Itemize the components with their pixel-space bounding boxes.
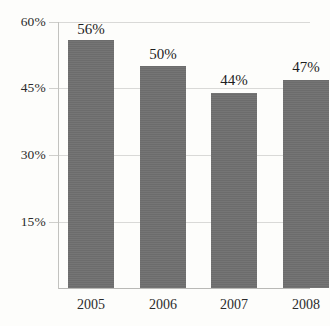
x-tick-label-2008: 2008 (274, 297, 330, 313)
tick-mark-45 (49, 88, 58, 89)
x-tick-label-2007: 2007 (202, 297, 266, 313)
tick-mark-15 (49, 222, 58, 223)
bar-value-2006: 50% (131, 46, 195, 63)
axis-baseline (58, 288, 310, 289)
bar-2008 (283, 80, 329, 288)
y-tick-label-30: 30% (2, 147, 46, 163)
y-axis-line (58, 22, 59, 289)
x-tick-label-2005: 2005 (59, 297, 123, 313)
y-tick-label-15: 15% (2, 214, 46, 230)
tick-mark-30 (49, 155, 58, 156)
bar-2007 (211, 93, 257, 288)
y-tick-label-60-wrap: 60% (0, 14, 46, 30)
bar-2006 (140, 66, 186, 288)
bar-value-2005: 56% (59, 21, 123, 38)
bar-value-2008: 47% (274, 59, 330, 76)
y-tick-label-30-wrap: 30% (0, 147, 46, 163)
y-tick-label-45-wrap: 45% (0, 80, 46, 96)
bar-chart: 60% 45% 30% 15% 56% 50% 44% 47% 2005 200… (0, 0, 330, 326)
x-tick-label-2006: 2006 (131, 297, 195, 313)
y-tick-label-15-wrap: 15% (0, 214, 46, 230)
y-tick-label-60: 60% (2, 14, 46, 30)
bar-2005 (68, 40, 114, 288)
tick-mark-60 (49, 22, 58, 23)
y-tick-label-45: 45% (2, 80, 46, 96)
bar-value-2007: 44% (202, 72, 266, 89)
